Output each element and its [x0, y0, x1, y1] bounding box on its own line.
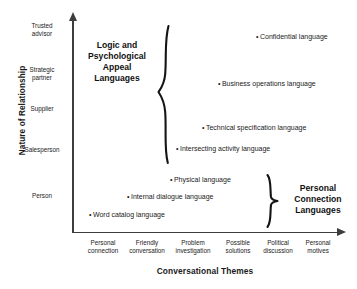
personal-group-brace-icon	[262, 173, 282, 229]
data-point-label: Word catalog language	[93, 211, 165, 218]
y-tick-line1: Trusted	[16, 22, 68, 30]
bullet-icon: •	[256, 33, 258, 41]
data-point-confidential-language: •Confidential language	[256, 33, 328, 41]
y-tick-line2: advisor	[16, 30, 68, 38]
personal-group-label-line1: Personal	[282, 183, 354, 194]
data-point-label: Confidential language	[260, 33, 328, 40]
data-point-intersecting-activity-language: •Intersecting activity language	[176, 145, 270, 153]
y-tick-supplier: Supplier	[16, 105, 68, 113]
bullet-icon: •	[202, 124, 204, 132]
y-axis-line	[72, 20, 74, 233]
y-tick-line1: Supplier	[16, 105, 68, 113]
x-axis-arrow-icon	[337, 228, 346, 236]
x-axis-title: Conversational Themes	[72, 266, 338, 276]
personal-group-label: Personal Connection Languages	[282, 183, 354, 216]
data-point-label: Internal dialogue language	[131, 193, 214, 200]
y-axis-arrow-icon	[69, 12, 77, 21]
y-tick-salesperson: Salesperson	[16, 146, 68, 154]
y-tick-line2: partner	[16, 74, 68, 82]
data-point-physical-language: •Physical language	[170, 176, 231, 184]
y-tick-trusted-advisor: Trusted advisor	[16, 22, 68, 37]
data-point-internal-dialogue-language: •Internal dialogue language	[127, 193, 213, 201]
logic-group-label-line3: Appeal	[77, 62, 157, 73]
logic-group-label-line4: Languages	[77, 73, 157, 84]
data-point-word-catalog-language: •Word catalog language	[89, 211, 165, 219]
bullet-icon: •	[127, 193, 129, 201]
y-tick-strategic-partner: Strategic partner	[16, 66, 68, 81]
data-point-label: Business operations language	[222, 80, 316, 87]
conceptual-positioning-chart: Nature of Relationship Conversational Th…	[0, 0, 357, 289]
y-tick-person: Person	[16, 192, 68, 200]
data-point-label: Physical language	[174, 176, 231, 183]
y-tick-line1: Strategic	[16, 66, 68, 74]
x-tick-line1: Personal	[291, 239, 345, 247]
logic-group-label-line2: Psychological	[77, 51, 157, 62]
y-tick-line1: Salesperson	[16, 146, 68, 154]
bullet-icon: •	[170, 176, 172, 184]
bullet-icon: •	[218, 80, 220, 88]
data-point-label: Technical specification language	[206, 124, 306, 131]
data-point-label: Intersecting activity language	[180, 145, 270, 152]
logic-group-label-line1: Logic and	[77, 40, 157, 51]
x-axis-line	[72, 232, 338, 234]
logic-group-brace-icon	[155, 24, 177, 166]
logic-group-label: Logic and Psychological Appeal Languages	[77, 40, 157, 84]
y-tick-line1: Person	[16, 192, 68, 200]
x-tick-line2: motives	[291, 247, 345, 255]
personal-group-label-line3: Languages	[282, 205, 354, 216]
x-tick-personal-motives: Personal motives	[291, 239, 345, 254]
personal-group-label-line2: Connection	[282, 194, 354, 205]
bullet-icon: •	[89, 211, 91, 219]
data-point-business-operations-language: •Business operations language	[218, 80, 316, 88]
data-point-technical-specification-language: •Technical specification language	[202, 124, 306, 132]
